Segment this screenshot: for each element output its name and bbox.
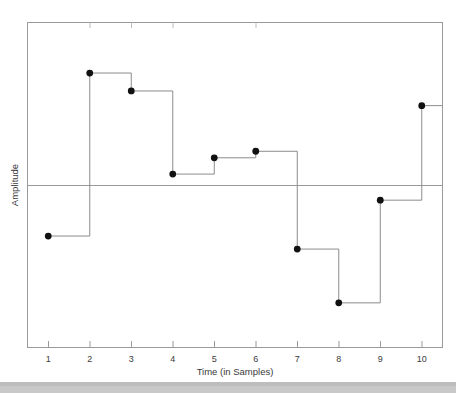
data-point-marker xyxy=(86,70,93,77)
x-tick-label: 3 xyxy=(129,354,134,364)
chart-figure: 12345678910 Time (in Samples) Amplitude xyxy=(0,0,456,393)
strip-highlight xyxy=(0,382,456,386)
bottom-scroll-strip xyxy=(0,382,456,393)
x-tick-label: 4 xyxy=(170,354,175,364)
x-tick-label: 8 xyxy=(336,354,341,364)
data-point-marker xyxy=(211,154,218,161)
figure-background xyxy=(0,0,456,393)
data-point-marker xyxy=(169,171,176,178)
x-tick-label: 6 xyxy=(253,354,258,364)
data-point-marker xyxy=(128,88,135,95)
data-point-marker xyxy=(252,148,259,155)
data-point-marker xyxy=(294,246,301,253)
data-point-marker xyxy=(418,102,425,109)
x-tick-label: 5 xyxy=(212,354,217,364)
data-point-marker xyxy=(45,233,52,240)
y-axis-title: Amplitude xyxy=(9,164,20,206)
x-tick-label: 10 xyxy=(417,354,427,364)
data-point-marker xyxy=(335,299,342,306)
x-tick-label: 2 xyxy=(87,354,92,364)
x-tick-label: 9 xyxy=(378,354,383,364)
x-tick-label: 7 xyxy=(295,354,300,364)
data-point-marker xyxy=(377,197,384,204)
x-tick-label: 1 xyxy=(46,354,51,364)
discrete-time-signal-plot: 12345678910 Time (in Samples) Amplitude xyxy=(0,0,456,393)
x-axis-title: Time (in Samples) xyxy=(197,366,274,377)
